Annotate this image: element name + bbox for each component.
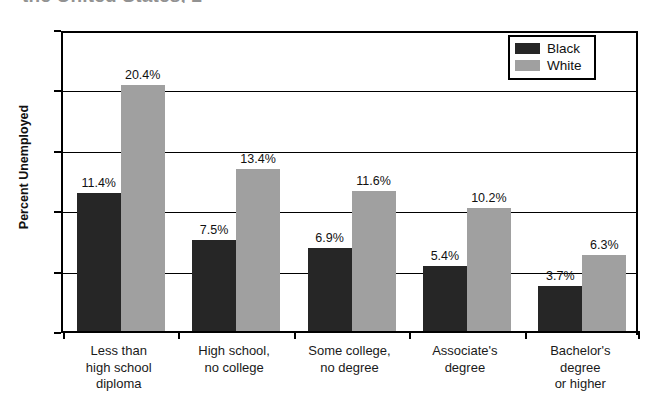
x-tick-mark bbox=[178, 331, 180, 339]
x-category-label-line: Associate's bbox=[407, 343, 522, 360]
x-tick-mark bbox=[638, 331, 640, 339]
x-category-label-line: High school, bbox=[176, 343, 291, 360]
bar-white bbox=[121, 85, 165, 331]
bar-white bbox=[467, 208, 511, 331]
legend-item-white: White bbox=[515, 57, 590, 74]
bar-white bbox=[582, 255, 626, 331]
y-tick-mark bbox=[54, 211, 61, 213]
x-category-label: Less thanhigh schooldiploma bbox=[61, 343, 176, 393]
x-tick-mark bbox=[525, 331, 527, 339]
bar-value-label: 6.3% bbox=[590, 238, 619, 252]
bar-value-label: 11.6% bbox=[356, 174, 391, 188]
bar-black bbox=[308, 248, 352, 331]
legend-swatch-black-icon bbox=[515, 43, 540, 54]
bar-group: 7.5%13.4% bbox=[192, 31, 280, 331]
legend-swatch-white-icon bbox=[515, 60, 540, 71]
y-tick-mark bbox=[54, 90, 61, 92]
bar-group: 5.4%10.2% bbox=[423, 31, 511, 331]
x-tick-mark bbox=[409, 331, 411, 339]
bar-black bbox=[192, 240, 236, 331]
x-category-label-line: no degree bbox=[292, 360, 407, 377]
unemployment-bar-chart: the United States, 2 Percent Unemployed … bbox=[0, 0, 654, 417]
legend-label-black: Black bbox=[547, 41, 580, 56]
bar-black bbox=[77, 193, 121, 331]
y-tick-mark bbox=[54, 151, 61, 153]
x-category-label: Some college,no degree bbox=[292, 343, 407, 376]
x-tick-mark bbox=[294, 331, 296, 339]
bar-black bbox=[538, 286, 582, 331]
bar-black bbox=[423, 266, 467, 331]
bar-value-label: 20.4% bbox=[125, 68, 160, 82]
bar-group: 6.9%11.6% bbox=[308, 31, 396, 331]
legend-label-white: White bbox=[547, 58, 582, 73]
bar-value-label: 10.2% bbox=[471, 191, 506, 205]
bar-value-label: 13.4% bbox=[240, 152, 275, 166]
x-tick-mark bbox=[63, 331, 65, 339]
x-category-label-line: Bachelor's bbox=[523, 343, 638, 360]
chart-title-clipped: the United States, 2 bbox=[22, 0, 442, 3]
x-category-label: Associate'sdegree bbox=[407, 343, 522, 376]
bar-white bbox=[352, 191, 396, 331]
x-category-label-line: or higher bbox=[523, 376, 638, 393]
x-category-label-line: degree bbox=[523, 360, 638, 377]
bar-value-label: 5.4% bbox=[431, 249, 460, 263]
bar-value-label: 7.5% bbox=[200, 223, 229, 237]
legend-item-black: Black bbox=[515, 40, 590, 57]
x-category-label-line: Less than bbox=[61, 343, 176, 360]
bar-group: 11.4%20.4% bbox=[77, 31, 165, 331]
bar-value-label: 11.4% bbox=[81, 176, 116, 190]
x-category-label-line: high school bbox=[61, 360, 176, 377]
bar-value-label: 6.9% bbox=[315, 231, 344, 245]
x-category-label-line: degree bbox=[407, 360, 522, 377]
y-tick-mark bbox=[54, 332, 61, 334]
y-tick-mark bbox=[54, 30, 61, 32]
legend: Black White bbox=[508, 35, 596, 80]
bar-value-label: 3.7% bbox=[546, 269, 575, 283]
x-category-label: High school,no college bbox=[176, 343, 291, 376]
x-category-label-line: no college bbox=[176, 360, 291, 377]
x-category-label-line: Some college, bbox=[292, 343, 407, 360]
x-category-label: Bachelor'sdegreeor higher bbox=[523, 343, 638, 393]
x-category-label-line: diploma bbox=[61, 376, 176, 393]
bar-white bbox=[236, 169, 280, 331]
y-tick-mark bbox=[54, 272, 61, 274]
y-axis-title: Percent Unemployed bbox=[17, 57, 31, 277]
